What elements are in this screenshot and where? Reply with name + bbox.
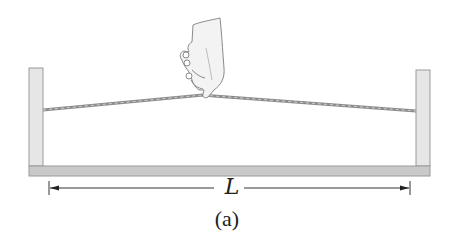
hand-icon [180, 18, 224, 98]
figure-caption: (a) [205, 206, 249, 232]
left-post [29, 68, 43, 166]
string [43, 95, 416, 111]
right-post [416, 70, 430, 166]
length-label: L [220, 174, 244, 200]
